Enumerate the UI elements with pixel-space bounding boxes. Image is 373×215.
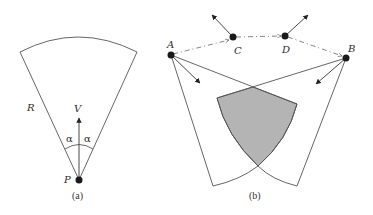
point-a-dot	[168, 52, 175, 59]
intersection-region	[217, 87, 297, 166]
point-a-label: A	[166, 39, 174, 50]
point-b-dot	[343, 55, 350, 62]
point-p-dot	[76, 177, 83, 184]
path-c-d	[236, 36, 281, 37]
diagram-canvas: R V α α P (a) A C D B (b)	[0, 0, 373, 215]
point-c-label: C	[234, 45, 242, 56]
velocity-label: V	[74, 103, 83, 114]
angle-right-label: α	[84, 133, 91, 144]
path-d-b	[288, 37, 342, 56]
arrow-d	[285, 15, 308, 36]
point-p-label: P	[63, 174, 71, 185]
point-d-dot	[282, 33, 289, 40]
path-a-c	[173, 40, 229, 54]
point-c-dot	[230, 34, 237, 41]
caption-a: (a)	[72, 190, 83, 202]
point-b-label: B	[347, 43, 355, 54]
angle-left-label: α	[66, 133, 73, 144]
caption-b: (b)	[249, 190, 261, 202]
point-d-label: D	[281, 44, 290, 55]
arrow-c	[212, 15, 233, 37]
radius-label: R	[26, 102, 35, 113]
